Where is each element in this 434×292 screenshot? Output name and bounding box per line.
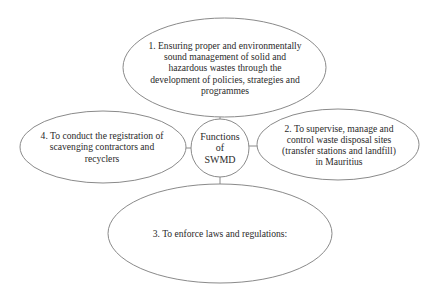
node-text-2: 2. To supervise, manage and control wast… [279,123,399,168]
node-text-3: 3. To enforce laws and regulations: [153,228,288,239]
node-text-1: 1. Ensuring proper and environmentally s… [148,40,302,96]
center-line-3: SWMD [204,154,235,166]
node-label-left: 4. To conduct the registration of scaven… [40,126,164,168]
node-label-right: 2. To supervise, manage and control wast… [279,120,399,170]
node-text-4: 4. To conduct the registration of scaven… [40,130,164,164]
node-label-bottom: 3. To enforce laws and regulations: [130,224,310,244]
center-label: Functions of SWMD [194,128,246,168]
center-line-2: of [216,142,224,154]
center-line-1: Functions [200,131,239,143]
node-label-top: 1. Ensuring proper and environmentally s… [148,30,302,106]
